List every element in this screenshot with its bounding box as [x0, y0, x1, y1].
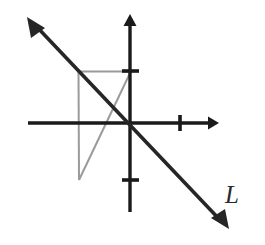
- construction-triangle-group: [78, 71, 131, 180]
- coordinate-plane-diagram: L: [0, 0, 265, 245]
- construction-hypotenuse-line: [79, 71, 131, 180]
- line-l-label: L: [224, 181, 239, 208]
- figure-canvas: L: [0, 0, 265, 245]
- x-axis-arrow-icon: [208, 117, 219, 130]
- y-axis-group: [122, 14, 139, 212]
- y-axis-arrow-icon: [124, 14, 137, 26]
- construction-vertical-line: [79, 71, 80, 180]
